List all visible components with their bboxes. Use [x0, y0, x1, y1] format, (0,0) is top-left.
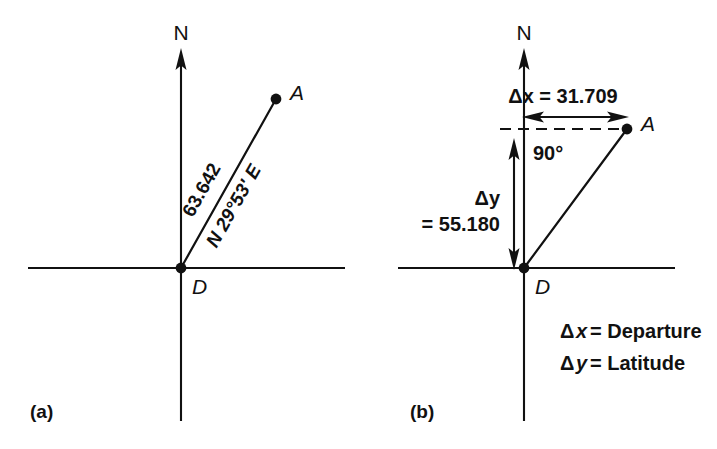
panel-b-delta-y-label-line2: = 55.180: [422, 213, 500, 235]
panel-b-caption: (b): [410, 401, 434, 422]
legend-latitude-variable: y: [575, 352, 588, 374]
legend-departure-variable: x: [575, 320, 588, 342]
panel-b-group: N D A Δx = 31.709 Δy = 55.180 90° Δ x = …: [398, 21, 702, 422]
panel-b-legend-row-latitude: Δ y = Latitude: [560, 352, 685, 374]
panel-b-point-d-label: D: [535, 275, 550, 298]
legend-departure-definition: = Departure: [590, 320, 702, 342]
panel-b-delta-y-label-line1: Δy: [475, 187, 501, 209]
panel-b-point-a-label: A: [639, 112, 655, 135]
panel-b-legend-row-departure: Δ x = Departure: [560, 320, 702, 342]
figure-svg: N D A 63.642 N 29°53' E (a): [0, 0, 717, 449]
panel-b-north-label: N: [516, 21, 531, 44]
panel-a-point-a-dot: [271, 94, 282, 105]
panel-a-caption: (a): [30, 401, 53, 422]
legend-latitude-delta: Δ: [560, 352, 574, 374]
panel-b-delta-x-label: Δx = 31.709: [508, 85, 617, 107]
panel-a-north-label: N: [173, 21, 188, 44]
panel-b-right-angle-label: 90°: [533, 142, 563, 164]
legend-departure-delta: Δ: [560, 320, 574, 342]
panel-a-point-d-dot: [176, 263, 187, 274]
panel-b-point-a-dot: [622, 124, 633, 135]
panel-b-point-d-dot: [519, 263, 530, 274]
panel-a-point-d-label: D: [192, 275, 207, 298]
legend-latitude-definition: = Latitude: [590, 352, 685, 374]
panel-a-point-a-label: A: [288, 81, 304, 104]
panel-a-group: N D A 63.642 N 29°53' E (a): [28, 21, 345, 422]
figure-container: N D A 63.642 N 29°53' E (a): [0, 0, 717, 449]
